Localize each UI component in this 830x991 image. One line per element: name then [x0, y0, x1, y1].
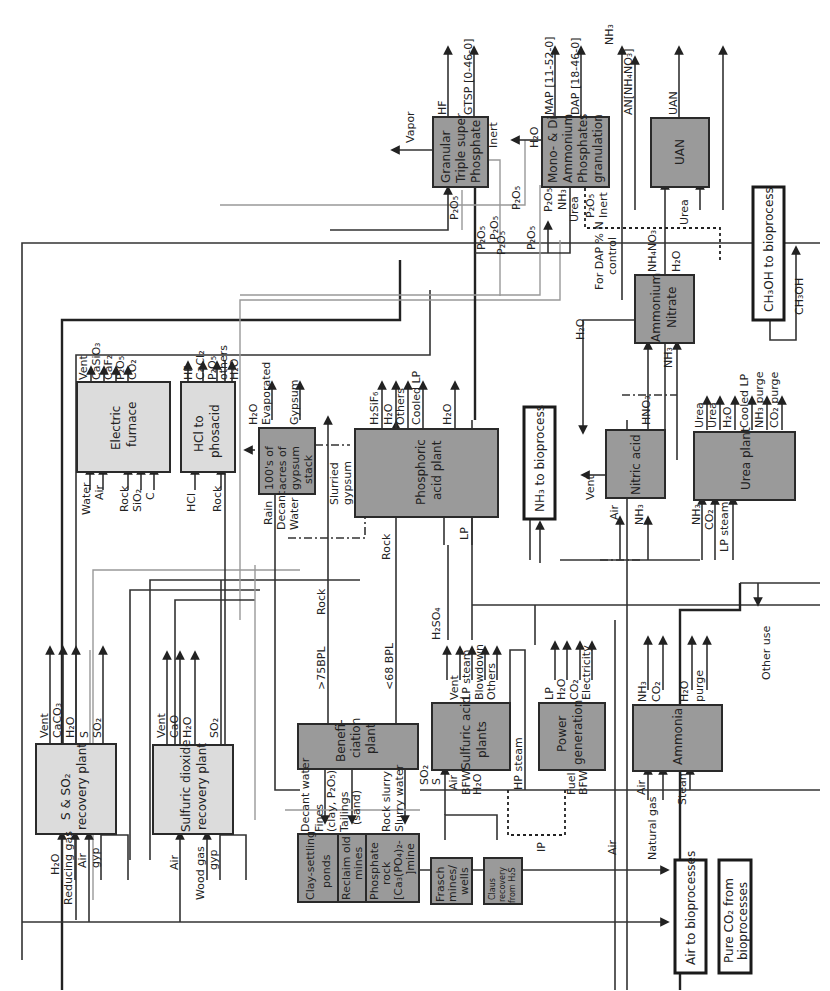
unit-claus-recovery: Claus recovery from H₂S	[484, 858, 522, 904]
svg-text:Air: Air	[93, 484, 106, 500]
svg-text:Vapor: Vapor	[404, 111, 417, 143]
svg-text:H₂O: H₂O	[721, 406, 734, 428]
unit-electric-furnace: Electric furnace	[77, 382, 170, 472]
svg-text:100's of: 100's of	[263, 445, 276, 490]
svg-text:Phosphoric: Phosphoric	[414, 439, 428, 505]
svg-text:Air: Air	[635, 779, 648, 795]
svg-text:UAN: UAN	[667, 91, 680, 115]
svg-text:CH₃OH: CH₃OH	[793, 278, 806, 315]
svg-text:Urea: Urea	[693, 402, 706, 428]
svg-text:P₂O₅: P₂O₅	[448, 196, 461, 220]
svg-text:S: S	[430, 778, 443, 785]
svg-text:bioprocesses: bioprocesses	[736, 882, 750, 960]
svg-text:AN[NH₄NO₃]: AN[NH₄NO₃]	[622, 48, 635, 115]
svg-text:Urea plant: Urea plant	[739, 427, 753, 490]
svg-text:Air: Air	[168, 854, 181, 870]
svg-text:NH₃: NH₃	[690, 504, 703, 525]
svg-text:Clay-settling: Clay-settling	[304, 831, 317, 900]
svg-text:S & SO₂: S & SO₂	[59, 773, 73, 820]
svg-text:Evaporated: Evaporated	[260, 362, 273, 425]
svg-text:P₂O₅: P₂O₅	[584, 194, 597, 218]
svg-text:Others: Others	[394, 388, 407, 425]
unit-uan: UAN	[651, 118, 709, 187]
svg-text:gyp: gyp	[89, 848, 102, 868]
svg-text:NH₄NO₃: NH₄NO₃	[646, 230, 659, 272]
unit-sulfuric-acid-plants: Sulfuric acid plants	[432, 696, 510, 770]
unit-power-generation: Power generation	[539, 700, 605, 770]
svg-text:Cooled LP: Cooled LP	[410, 370, 423, 425]
svg-text:Air to bioprocesses: Air to bioprocesses	[684, 851, 698, 965]
svg-text:Sulfuric acid: Sulfuric acid	[459, 696, 473, 770]
svg-text:Gypsum: Gypsum	[288, 380, 301, 425]
svg-text:CO₂: CO₂	[703, 509, 716, 530]
unit-sulfur-dioxide-recovery-plant: Sulfuric dioxide recovery plant	[153, 740, 233, 834]
svg-text:LP: LP	[458, 527, 471, 540]
svg-text:Rock: Rock	[380, 533, 393, 560]
svg-text:Electric: Electric	[109, 406, 123, 450]
box-ch3oh-to-bioprocess: CH₃OH to bioprocess	[753, 187, 784, 320]
svg-text:wells: wells	[458, 867, 471, 895]
unit-nitric-acid: Nitric acid	[606, 430, 665, 498]
svg-text:CH₃OH to bioprocess: CH₃OH to bioprocess	[762, 187, 776, 312]
svg-text:furnace: furnace	[125, 402, 139, 448]
svg-text:Sulfuric dioxide: Sulfuric dioxide	[179, 740, 193, 832]
svg-text:For DAP % N: For DAP % N	[593, 221, 606, 290]
svg-text:H₂O: H₂O	[678, 680, 691, 702]
svg-text:H₂O: H₂O	[528, 126, 541, 148]
svg-text:plants: plants	[475, 721, 489, 758]
svg-text:C: C	[144, 492, 157, 500]
unit-frasch-mines: Frasch mines/ wells	[431, 858, 472, 904]
svg-text:CO₂: CO₂	[126, 359, 139, 380]
unit-phosphoric-acid-plant: Phosphoric acid plant	[355, 429, 498, 517]
svg-text:Reducing gas: Reducing gas	[62, 831, 75, 905]
svg-text:Rain: Rain	[262, 501, 275, 525]
svg-text:recovery plant: recovery plant	[75, 743, 89, 830]
svg-text:Decant water: Decant water	[299, 757, 312, 832]
svg-text:Urea: Urea	[706, 402, 719, 428]
svg-text:Air: Air	[76, 852, 89, 868]
svg-text:granulation: granulation	[591, 114, 605, 183]
svg-text:NH₃ purge: NH₃ purge	[753, 371, 766, 428]
svg-text:Vent: Vent	[155, 713, 168, 738]
svg-text:Vent: Vent	[77, 355, 90, 380]
svg-text:plant: plant	[364, 723, 378, 754]
svg-text:H₂O: H₂O	[670, 250, 683, 272]
svg-text:Air: Air	[447, 774, 460, 790]
svg-text:ciation: ciation	[349, 718, 363, 758]
svg-text:Inert: Inert	[597, 191, 610, 218]
svg-text:NH₃: NH₃	[662, 347, 675, 368]
svg-text:Vent: Vent	[38, 713, 51, 738]
process-flow-diagram: Granular Triple super Phosphate Mono- & …	[0, 0, 830, 991]
svg-text:Urea: Urea	[568, 196, 581, 222]
svg-text:Rock: Rock	[118, 485, 131, 512]
svg-text:(sand): (sand)	[350, 790, 363, 825]
svg-text:Inert: Inert	[487, 121, 500, 148]
svg-text:Rock slurry: Rock slurry	[380, 771, 393, 832]
svg-text:Rock: Rock	[315, 588, 328, 615]
unit-gypsum-stack: 100's of acres of gypsum stack	[259, 428, 315, 494]
svg-text:Decant: Decant	[275, 490, 288, 530]
svg-text:Other use: Other use	[760, 626, 773, 680]
svg-text:LP steam: LP steam	[460, 649, 473, 700]
svg-text:Nitric acid: Nitric acid	[629, 434, 643, 495]
svg-text:H₂O: H₂O	[228, 358, 241, 380]
svg-text:recovery: recovery	[498, 867, 507, 902]
svg-text:DAP [18-46-0]: DAP [18-46-0]	[569, 38, 582, 115]
svg-text:BFW: BFW	[577, 770, 590, 795]
svg-text:NH₃: NH₃	[633, 504, 646, 525]
svg-text:Steam: Steam	[676, 769, 689, 805]
svg-text:Air: Air	[606, 839, 619, 855]
unit-beneficiation-plant: Benefi- ciation plant	[298, 718, 418, 769]
svg-text:UAN: UAN	[673, 139, 687, 165]
svg-text:IP: IP	[535, 842, 548, 852]
svg-text:H₂SiF₆: H₂SiF₆	[368, 391, 381, 425]
svg-text:H₂O: H₂O	[555, 678, 568, 700]
svg-text:CO₂: CO₂	[650, 681, 663, 702]
svg-text:acres of: acres of	[276, 445, 289, 490]
svg-text:Mono- & Di-: Mono- & Di-	[546, 112, 560, 183]
svg-text:Others: Others	[485, 663, 498, 700]
svg-text:Water: Water	[288, 497, 301, 530]
svg-text:H₂O: H₂O	[49, 853, 62, 875]
svg-text:Slurried: Slurried	[328, 462, 341, 505]
svg-text:stack: stack	[302, 454, 315, 484]
